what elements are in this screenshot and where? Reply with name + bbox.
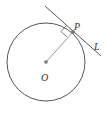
diagram-canvas: P O L: [0, 0, 107, 113]
label-l: L: [93, 41, 100, 52]
label-o: O: [41, 72, 48, 83]
label-p: P: [73, 21, 80, 32]
radius-op: [46, 32, 73, 62]
point-o-dot: [44, 60, 48, 64]
circle-tangent-diagram: P O L: [0, 0, 107, 113]
